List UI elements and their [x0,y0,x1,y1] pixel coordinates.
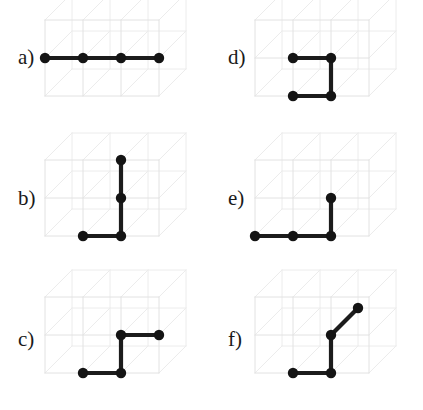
panel-label-e: e) [228,188,244,209]
lattice-svg-b [33,148,198,275]
chain-node [326,91,336,101]
lattice-svg-d [243,8,408,135]
chain-node [116,330,126,340]
panel-label-a: a) [18,47,34,68]
lattice-svg-e [243,148,408,275]
lattice-panel-f [243,285,408,410]
chain-node [288,91,298,101]
lattice-panel-c [33,285,198,410]
chain-node [250,231,260,241]
lattice-svg-a [33,8,198,135]
chain-a [40,53,164,63]
chain-node [116,155,126,165]
lattice-svg-c [33,285,198,410]
chain-node [40,53,50,63]
chain-node [116,368,126,378]
chain-node [326,53,336,63]
lattice-panel-b [33,148,198,275]
chain-node [78,53,88,63]
lattice-panel-d [243,8,408,135]
chain-node [288,368,298,378]
panel-label-c: c) [18,329,34,350]
lattice-wireframe-d [255,0,396,96]
lattice-conformations-figure: a)b)c)d)e)f) [0,0,423,410]
lattice-wireframe-b [45,133,186,236]
chain-node [326,368,336,378]
chain-node [116,193,126,203]
chain-node [326,231,336,241]
chain-node [288,231,298,241]
panel-label-f: f) [228,329,242,350]
chain-node [353,303,363,313]
lattice-wireframe-a [45,0,186,96]
chain-bond [331,308,358,335]
chain-node [116,53,126,63]
lattice-wireframe-f [255,270,396,373]
chain-node [78,368,88,378]
chain-node [154,330,164,340]
chain-node [326,193,336,203]
chain-node [78,231,88,241]
chain-node [154,53,164,63]
chain-node [326,330,336,340]
lattice-svg-f [243,285,408,410]
chain-node [116,231,126,241]
chain-c [78,330,164,378]
lattice-panel-e [243,148,408,275]
chain-node [288,53,298,63]
lattice-wireframe-e [255,133,396,236]
lattice-panel-a [33,8,198,135]
lattice-wireframe-c [45,270,186,373]
